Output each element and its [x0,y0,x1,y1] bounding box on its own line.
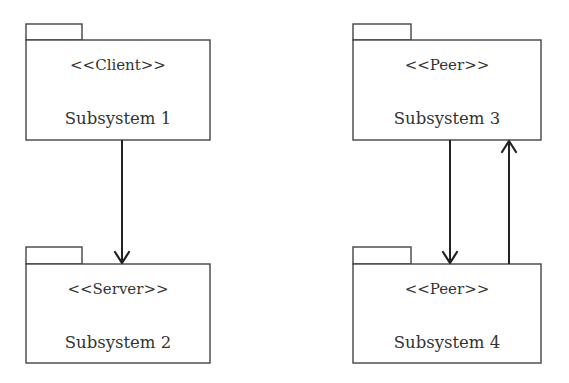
package-subsystem-3[interactable]: <<Peer>> Subsystem 3 [353,24,541,140]
package-name: Subsystem 3 [394,109,501,128]
package-subsystem-2[interactable]: <<Server>> Subsystem 2 [26,247,210,363]
dependency-arrow-1-to-2 [115,140,129,263]
package-subsystem-4[interactable]: <<Peer>> Subsystem 4 [353,247,541,363]
package-tab [26,24,82,40]
dependency-arrow-4-to-3 [502,141,516,264]
package-name: Subsystem 4 [394,333,501,352]
package-stereotype: <<Peer>> [405,280,490,298]
package-stereotype: <<Peer>> [405,56,490,74]
package-diagram: <<Client>> Subsystem 1 <<Server>> Subsys… [0,0,569,383]
package-stereotype: <<Client>> [70,56,166,74]
package-tab [353,247,411,264]
dependency-arrow-3-to-4 [443,140,457,263]
package-tab [353,24,411,40]
package-name: Subsystem 1 [65,109,172,128]
package-tab [26,247,82,264]
package-stereotype: <<Server>> [67,280,168,298]
package-name: Subsystem 2 [65,333,172,352]
package-subsystem-1[interactable]: <<Client>> Subsystem 1 [26,24,210,140]
